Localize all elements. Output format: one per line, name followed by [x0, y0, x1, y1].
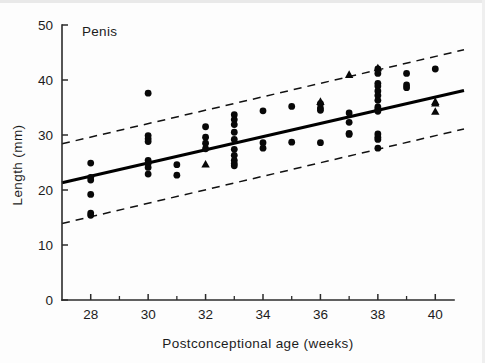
data-point-circle — [87, 191, 94, 198]
x-tick-label: 34 — [255, 307, 271, 322]
data-point-circle — [231, 129, 238, 136]
data-point-circle — [317, 139, 324, 146]
data-point-circle — [374, 145, 381, 152]
data-point-circle — [346, 110, 353, 117]
x-tick-label: 36 — [313, 307, 328, 322]
data-point-circle — [87, 177, 94, 184]
data-point-circle — [145, 138, 152, 145]
data-point-circle — [374, 108, 381, 115]
panel-title: Penis — [82, 24, 117, 39]
y-axis-title: Length (mm) — [10, 125, 25, 206]
data-point-circle — [145, 164, 152, 171]
data-point-circle — [202, 123, 209, 130]
regression-line — [62, 90, 464, 182]
data-point-circle — [87, 160, 94, 167]
data-point-circle — [202, 134, 209, 141]
data-point-circle — [288, 103, 295, 110]
data-point-circle — [145, 90, 152, 97]
y-tick-label: 0 — [45, 293, 53, 308]
data-point-circle — [202, 145, 209, 152]
y-tick-label: 20 — [38, 183, 53, 198]
data-point-circle — [317, 107, 324, 114]
data-point-circle — [374, 136, 381, 143]
x-tick-label: 32 — [198, 307, 213, 322]
x-tick-label: 28 — [83, 307, 98, 322]
data-point-circle — [231, 146, 238, 153]
data-point-circle — [260, 107, 267, 114]
regression-line-group — [62, 90, 464, 182]
x-tick-label: 38 — [370, 307, 385, 322]
upper-prediction-limit — [62, 50, 464, 144]
data-point-circle — [403, 70, 410, 77]
y-tick-label: 50 — [38, 18, 53, 33]
x-tick-label: 40 — [428, 307, 443, 322]
data-point-circle — [173, 172, 180, 179]
y-tick-label: 10 — [38, 238, 53, 253]
data-point-circle — [260, 145, 267, 152]
data-point-circle — [231, 121, 238, 128]
data-point-triangle — [316, 97, 324, 105]
figure-container: 2830323436384001020304050 Penis Postconc… — [0, 0, 485, 363]
data-point-circle — [173, 161, 180, 168]
data-point-circle — [346, 119, 353, 126]
y-tick-label: 40 — [38, 73, 53, 88]
data-point-circle — [231, 162, 238, 169]
data-point-circle — [346, 131, 353, 138]
data-point-circle — [87, 212, 94, 219]
scatter-plot: 2830323436384001020304050 Penis Postconc… — [0, 0, 485, 363]
data-point-circle — [432, 66, 439, 73]
data-point-circle — [288, 139, 295, 146]
data-point-circle — [374, 97, 381, 104]
data-point-circle — [403, 84, 410, 91]
data-point-circle — [231, 136, 238, 143]
data-points-group — [87, 64, 439, 219]
x-axis-title: Postconceptional age (weeks) — [162, 336, 353, 351]
data-point-triangle — [345, 70, 353, 78]
x-tick-label: 30 — [141, 307, 156, 322]
y-tick-label: 30 — [38, 128, 53, 143]
data-point-triangle — [201, 160, 209, 168]
data-point-triangle — [431, 107, 439, 115]
axes-group: 2830323436384001020304050 — [38, 18, 454, 322]
data-point-circle — [145, 171, 152, 178]
